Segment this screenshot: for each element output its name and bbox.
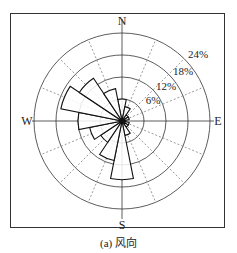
grid-spoke	[122, 121, 203, 155]
ring-label: 18%	[173, 65, 193, 77]
ring-label: 12%	[156, 80, 176, 92]
ring-label: 24%	[188, 48, 208, 60]
grid-spoke	[122, 87, 203, 121]
label-south: S	[119, 218, 126, 232]
chart-caption: (a) 风向	[0, 234, 237, 250]
label-north: N	[118, 14, 127, 28]
label-east: E	[214, 114, 221, 128]
wind-rose-chart: NSWE6%12%18%24%	[0, 0, 237, 253]
ring-label: 6%	[146, 94, 161, 106]
label-west: W	[21, 114, 33, 128]
center-dot	[119, 118, 125, 124]
